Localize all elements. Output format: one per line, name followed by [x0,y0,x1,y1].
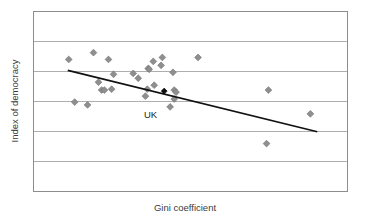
y-axis-title: Index of democracy [9,59,20,142]
uk-point-label: UK [144,109,158,120]
scatter-plot: UK Gini coefficient Index of democracy [0,0,366,218]
chart-figure: UK Gini coefficient Index of democracy [0,0,366,218]
x-axis-title: Gini coefficient [154,202,216,213]
